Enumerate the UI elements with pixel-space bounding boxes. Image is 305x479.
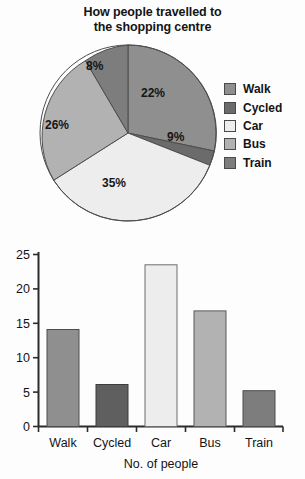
y-tick-label-15: 15 <box>16 317 30 331</box>
legend-swatch-icon-cycled <box>224 102 236 114</box>
legend: Walk Cycled Car Bus Train <box>224 80 302 172</box>
x-tick-label-cycled: Cycled <box>93 436 131 450</box>
legend-label-cycled: Cycled <box>243 102 282 114</box>
legend-item-cycled[interactable]: Cycled <box>224 98 302 116</box>
x-tick-label-bus: Bus <box>199 436 221 450</box>
x-tick-label-train: Train <box>245 436 273 450</box>
pie-label-walk: 22% <box>141 86 165 100</box>
legend-swatch-icon-bus <box>224 138 236 150</box>
legend-swatch-icon-train <box>224 157 236 169</box>
bar-cycled <box>96 385 128 427</box>
legend-swatch-icon-car <box>224 120 236 132</box>
page-title: How people travelled to the shopping cen… <box>0 5 305 35</box>
pie-label-bus: 26% <box>45 118 69 132</box>
pie-chart-svg <box>36 41 220 225</box>
bar-walk <box>47 330 79 427</box>
chart-page: How people travelled to the shopping cen… <box>0 0 305 479</box>
page-title-line-1: How people travelled to <box>83 5 221 19</box>
y-axis-tick-labels: 0 5 10 15 20 25 <box>16 248 30 434</box>
bar-car <box>145 265 177 427</box>
legend-item-car[interactable]: Car <box>224 117 302 135</box>
page-title-line-2: the shopping centre <box>0 20 305 35</box>
legend-label-train: Train <box>243 157 272 169</box>
y-tick-label-0: 0 <box>23 420 30 434</box>
legend-item-train[interactable]: Train <box>224 154 302 172</box>
pie-chart: 22% 9% 35% 26% 8% <box>36 41 220 225</box>
bar-train <box>243 391 275 427</box>
legend-label-walk: Walk <box>243 83 271 95</box>
legend-item-bus[interactable]: Bus <box>224 135 302 153</box>
x-axis-tick-labels: Walk Cycled Car Bus Train <box>49 436 273 450</box>
x-tick-label-walk: Walk <box>49 436 77 450</box>
pie-label-cycled: 9% <box>167 130 184 144</box>
y-tick-label-5: 5 <box>23 386 30 400</box>
pie-label-car: 35% <box>102 176 126 190</box>
legend-item-walk[interactable]: Walk <box>224 80 302 98</box>
y-tick-label-20: 20 <box>16 282 30 296</box>
bar-chart: 0 5 10 15 20 25 <box>0 240 305 479</box>
bar-chart-svg: 0 5 10 15 20 25 <box>0 240 305 479</box>
y-tick-label-10: 10 <box>16 351 30 365</box>
legend-label-car: Car <box>243 120 263 132</box>
x-axis-label: No. of people <box>124 457 198 471</box>
y-tick-label-25: 25 <box>16 248 30 262</box>
x-tick-label-car: Car <box>151 436 171 450</box>
pie-label-train: 8% <box>86 59 103 73</box>
legend-swatch-icon-walk <box>224 83 236 95</box>
legend-label-bus: Bus <box>243 138 266 150</box>
bar-bus <box>194 311 226 427</box>
